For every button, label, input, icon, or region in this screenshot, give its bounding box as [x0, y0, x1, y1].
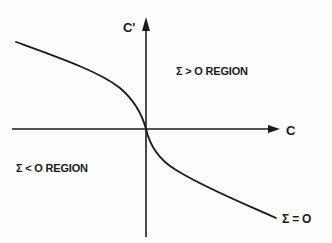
- c-axis-label: C: [286, 124, 295, 137]
- phase-plot: [0, 0, 332, 243]
- c-axis-arrow-icon: [268, 125, 280, 133]
- negative-region-label: Σ < O REGION: [16, 163, 88, 174]
- diagram-canvas: C' C Σ > O REGION Σ < O REGION Σ = O: [0, 0, 332, 243]
- sigma-zero-curve-label: Σ = O: [282, 213, 311, 225]
- positive-region-label: Σ > O REGION: [176, 66, 248, 77]
- c-prime-axis-arrow-icon: [142, 17, 150, 31]
- c-prime-axis-label: C': [123, 21, 135, 34]
